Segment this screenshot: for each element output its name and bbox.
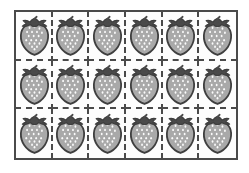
array-cell: strawberry [53, 61, 90, 110]
strawberry-icon [54, 14, 87, 58]
strawberry-icon [201, 14, 234, 58]
array-cell: strawberry [53, 109, 90, 158]
strawberry-icon [128, 63, 161, 107]
array-cell: strawberry [126, 109, 163, 158]
array-cell: strawberry [199, 12, 236, 61]
array-cell: strawberry [89, 61, 126, 110]
array-cell: strawberry [53, 12, 90, 61]
array-cell: strawberry [16, 61, 53, 110]
array-cell: strawberry [199, 109, 236, 158]
strawberry-icon [164, 14, 197, 58]
strawberry-icon [91, 112, 124, 156]
array-cell: strawberry [89, 109, 126, 158]
array-cell: strawberry [89, 12, 126, 61]
strawberry-icon [128, 14, 161, 58]
strawberry-icon [54, 112, 87, 156]
strawberry-icon [54, 63, 87, 107]
array-cell: strawberry [16, 109, 53, 158]
strawberry-icon [18, 63, 51, 107]
strawberry-icon [201, 63, 234, 107]
array-cell: strawberry [163, 61, 200, 110]
array-cell: strawberry [199, 61, 236, 110]
array-cell: strawberry [16, 12, 53, 61]
strawberry-icon [164, 112, 197, 156]
strawberry-icon [91, 14, 124, 58]
array-cell: strawberry [163, 109, 200, 158]
strawberry-icon [18, 14, 51, 58]
array-cell: strawberry [126, 61, 163, 110]
strawberry-array-grid: strawberry strawberry strawberry strawbe… [14, 10, 238, 160]
strawberry-icon [164, 63, 197, 107]
array-cell: strawberry [163, 12, 200, 61]
array-cell: strawberry [126, 12, 163, 61]
strawberry-icon [128, 112, 161, 156]
strawberry-icon [18, 112, 51, 156]
strawberry-icon [201, 112, 234, 156]
strawberry-icon [91, 63, 124, 107]
